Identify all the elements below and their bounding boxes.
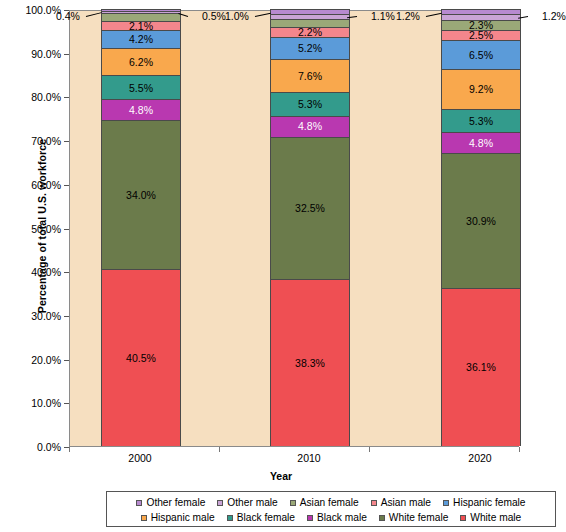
bar-segment-black-male: 4.8% [270, 116, 350, 137]
legend-item-label: Black female [237, 512, 295, 523]
segment-value-label: 4.2% [129, 34, 153, 45]
legend-item-other-female[interactable]: Other female [136, 497, 205, 508]
callout-label-other-female: 1.2% [396, 10, 420, 22]
bar-segment-asian-female: 2.3% [441, 20, 521, 30]
bar-segment-black-female: 5.3% [441, 109, 521, 132]
legend-item-hispanic-female[interactable]: Hispanic female [443, 497, 525, 508]
bar-segment-black-female: 5.3% [270, 92, 350, 115]
legend-swatch-icon [443, 500, 449, 506]
bar-segment-other-male [270, 14, 350, 19]
segment-value-label: 4.8% [129, 105, 153, 116]
callout-label-other-female: 0.4% [56, 10, 80, 22]
bar-segment-hispanic-female: 6.5% [441, 40, 521, 68]
legend-swatch-icon [307, 515, 313, 521]
legend-item-label: Other female [146, 497, 205, 508]
y-tick-label: 50.0% [0, 223, 61, 235]
segment-value-label: 36.1% [466, 362, 496, 373]
bar-segment-other-male [101, 11, 181, 13]
legend-item-label: White female [389, 512, 448, 523]
callout-label-other-male: 1.2% [542, 10, 566, 22]
bar-segment-hispanic-male: 9.2% [441, 69, 521, 109]
bar-segment-hispanic-male: 6.2% [101, 48, 181, 75]
y-tick-label: 60.0% [0, 179, 61, 191]
legend-item-label: Black male [317, 512, 367, 523]
bar-segment-white-female: 30.9% [441, 153, 521, 288]
callout-label-other-male: 1.1% [371, 10, 395, 22]
legend-swatch-icon [136, 500, 142, 506]
x-axis-title: Year [0, 470, 562, 482]
segment-value-label: 5.2% [298, 43, 322, 54]
legend-item-asian-male[interactable]: Asian male [371, 497, 431, 508]
segment-value-label: 2.2% [298, 27, 322, 38]
bar-segment-asian-female [270, 19, 350, 27]
y-tick-label: 0.0% [0, 441, 61, 453]
bar-segment-hispanic-female: 4.2% [101, 30, 181, 48]
y-tick-label: 90.0% [0, 48, 61, 60]
legend-item-asian-female[interactable]: Asian female [290, 497, 359, 508]
x-tick-mark [369, 447, 370, 452]
segment-value-label: 2.3% [469, 20, 493, 31]
y-tick-label: 70.0% [0, 135, 61, 147]
segment-value-label: 40.5% [126, 353, 156, 364]
segment-value-label: 6.5% [469, 50, 493, 61]
bar-segment-white-male: 36.1% [441, 288, 521, 446]
bar-segment-asian-male: 2.2% [270, 27, 350, 37]
legend-item-white-female[interactable]: White female [379, 512, 448, 523]
bar-segment-white-female: 32.5% [270, 137, 350, 279]
bar-segment-other-male [441, 14, 521, 19]
legend-swatch-icon [379, 515, 385, 521]
legend-item-black-male[interactable]: Black male [307, 512, 367, 523]
legend-swatch-icon [460, 515, 466, 521]
callout-label-other-female: 1.0% [225, 10, 249, 22]
y-tick-label: 20.0% [0, 354, 61, 366]
bar-segment-other-female [101, 9, 181, 11]
x-tick-label: 2000 [95, 452, 185, 464]
plot-area: 40.5%34.0%4.8%5.5%6.2%4.2%2.1%38.3%32.5%… [69, 10, 519, 447]
bar-segment-hispanic-male: 7.6% [270, 59, 350, 92]
bar-segment-asian-male: 2.5% [441, 30, 521, 41]
bar-2020: 36.1%30.9%4.8%5.3%9.2%6.5%2.5%2.3% [441, 9, 521, 446]
segment-value-label: 30.9% [466, 216, 496, 227]
y-tick-label: 80.0% [0, 91, 61, 103]
legend-item-black-female[interactable]: Black female [227, 512, 295, 523]
legend-swatch-icon [141, 515, 147, 521]
segment-value-label: 32.5% [295, 203, 325, 214]
legend-item-label: Hispanic female [453, 497, 525, 508]
bar-segment-white-male: 38.3% [270, 279, 350, 446]
legend-item-label: Asian female [300, 497, 359, 508]
bar-segment-black-male: 4.8% [101, 99, 181, 120]
y-tick-label: 10.0% [0, 397, 61, 409]
y-tick-label: 30.0% [0, 310, 61, 322]
segment-value-label: 5.3% [469, 116, 493, 127]
segment-value-label: 4.8% [469, 138, 493, 149]
legend-item-hispanic-male[interactable]: Hispanic male [141, 512, 215, 523]
segment-value-label: 4.8% [298, 121, 322, 132]
legend-item-label: White male [470, 512, 521, 523]
bar-2010: 38.3%32.5%4.8%5.3%7.6%5.2%2.2% [270, 9, 350, 446]
callout-leader-line [518, 16, 528, 19]
callout-label-other-male: 0.5% [202, 10, 226, 22]
legend-swatch-icon [227, 515, 233, 521]
legend-item-white-male[interactable]: White male [460, 512, 521, 523]
bar-segment-hispanic-female: 5.2% [270, 37, 350, 60]
segment-value-label: 2.5% [469, 30, 493, 41]
legend-row-1: Other femaleOther maleAsian femaleAsian … [113, 495, 549, 510]
legend-swatch-icon [371, 500, 377, 506]
legend-item-label: Hispanic male [151, 512, 215, 523]
segment-value-label: 2.1% [129, 21, 153, 32]
y-axis-ticks: 0.0%10.0%20.0%30.0%40.0%50.0%60.0%70.0%8… [0, 0, 69, 447]
legend-item-other-male[interactable]: Other male [217, 497, 277, 508]
x-tick-label: 2010 [264, 452, 354, 464]
segment-value-label: 34.0% [126, 190, 156, 201]
segment-value-label: 38.3% [295, 358, 325, 369]
bar-segment-asian-female [101, 13, 181, 21]
bar-segment-other-female [441, 9, 521, 14]
x-tick-mark [219, 447, 220, 452]
segment-value-label: 7.6% [298, 71, 322, 82]
y-tick-label: 100.0% [0, 4, 61, 16]
y-tick-label: 40.0% [0, 266, 61, 278]
legend: Other femaleOther maleAsian femaleAsian … [106, 491, 556, 527]
legend-swatch-icon [290, 500, 296, 506]
bar-segment-white-male: 40.5% [101, 269, 181, 446]
legend-item-label: Other male [227, 497, 277, 508]
